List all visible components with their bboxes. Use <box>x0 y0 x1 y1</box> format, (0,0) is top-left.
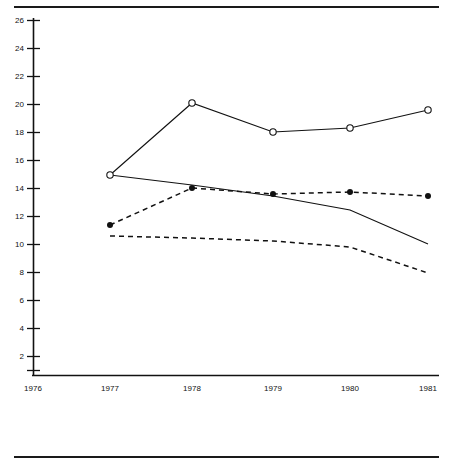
x-tick-label-1976: 1976 <box>13 384 53 393</box>
y-tick-label-14: 14 <box>2 184 24 193</box>
y-tick-label-26: 26 <box>2 16 24 25</box>
y-tick-label-16: 16 <box>2 156 24 165</box>
y-tick-label-10: 10 <box>2 240 24 249</box>
y-tick-label-12: 12 <box>2 212 24 221</box>
x-tick-label-1977: 1977 <box>90 384 130 393</box>
x-tick-label-1980: 1980 <box>330 384 370 393</box>
series-group-roa-line <box>110 188 428 225</box>
y-tick-label-22: 22 <box>2 72 24 81</box>
series-group-roa-markers <box>107 185 431 228</box>
chart-page: 26 24 22 20 18 16 14 12 10 8 6 4 2 1976 … <box>0 0 453 464</box>
line-chart-plot <box>0 0 453 400</box>
y-tick-label-4: 4 <box>2 324 24 333</box>
y-tick-label-20: 20 <box>2 100 24 109</box>
y-tick-label-8: 8 <box>2 268 24 277</box>
series-group-roe-markers <box>107 100 431 178</box>
bottom-divider-rule <box>14 456 439 458</box>
x-tick-label-1981: 1981 <box>408 384 448 393</box>
series-squibb-roe-line <box>110 175 428 244</box>
y-tick-label-6: 6 <box>2 296 24 305</box>
y-tick-label-18: 18 <box>2 128 24 137</box>
x-tick-label-1979: 1979 <box>253 384 293 393</box>
y-tick-label-2: 2 <box>2 352 24 361</box>
y-tick-label-24: 24 <box>2 44 24 53</box>
x-tick-label-1978: 1978 <box>172 384 212 393</box>
series-group-roe-line <box>110 103 428 175</box>
series-squibb-roa-line <box>110 236 428 273</box>
chart-legend: Squibb Corp. Group Mean Return on Equity… <box>0 406 453 454</box>
